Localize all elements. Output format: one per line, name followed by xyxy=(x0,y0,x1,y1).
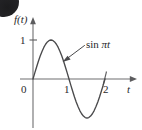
y-axis-label: f(t) xyxy=(14,13,28,26)
sine-wave-chart: f(t) 1 0 1 2 t sin πt xyxy=(0,0,142,130)
y-tick-label-1: 1 xyxy=(20,34,26,46)
annotation-leader-line xyxy=(67,46,85,60)
origin-label: 0 xyxy=(21,83,27,95)
figure-container: f(t) 1 0 1 2 t sin πt xyxy=(0,0,142,130)
x-axis-arrowhead xyxy=(130,76,137,82)
y-axis-arrowhead xyxy=(30,17,36,24)
x-axis-label: t xyxy=(127,83,131,95)
x-tick-label-1: 1 xyxy=(64,83,70,95)
curve-annotation-italic: πt xyxy=(102,38,112,50)
curve-annotation-roman: sin xyxy=(86,38,99,50)
curve-annotation-label: sin πt xyxy=(86,38,111,50)
x-tick-label-2: 2 xyxy=(103,83,109,95)
